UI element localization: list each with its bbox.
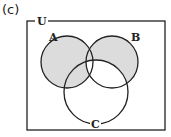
- set-a-label: A: [48, 31, 58, 44]
- venn-diagram: U A B C: [0, 0, 171, 137]
- set-b-label: B: [131, 31, 140, 44]
- set-c-label: C: [91, 118, 100, 131]
- shaded-region: [0, 0, 171, 137]
